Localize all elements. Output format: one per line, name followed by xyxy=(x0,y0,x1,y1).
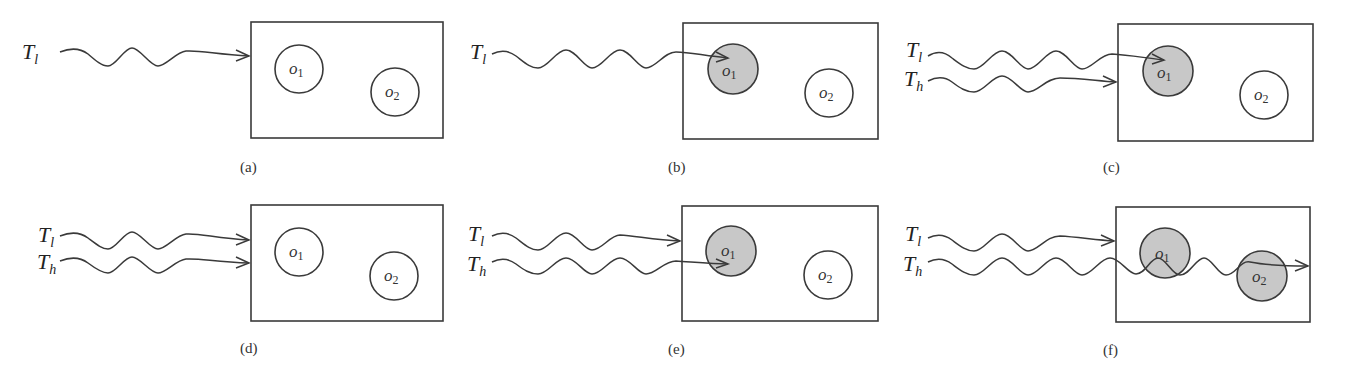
transaction-wave-th xyxy=(60,257,249,273)
panel-d: Tl Th o1 o2 (d) xyxy=(37,205,443,357)
transaction-wave-tl xyxy=(492,50,728,68)
transaction-wave-tl xyxy=(928,51,1164,69)
panel-caption: (d) xyxy=(240,340,258,357)
panel-caption: (f) xyxy=(1103,342,1118,359)
transaction-wave-tl xyxy=(60,48,249,66)
transaction-label-tl: Tl xyxy=(470,39,486,67)
transaction-wave-tl xyxy=(928,234,1114,251)
panel-caption: (c) xyxy=(1103,159,1120,176)
panel-caption: (e) xyxy=(668,341,685,358)
transaction-label-tl: Tl xyxy=(22,39,38,67)
panel-f: Tl Th o1 o2 (f) xyxy=(903,207,1310,359)
transaction-wave-th xyxy=(492,258,728,274)
transaction-wave-th xyxy=(928,76,1116,92)
transaction-label-tl: Tl xyxy=(468,221,484,249)
panel-caption: (b) xyxy=(668,159,686,176)
transaction-lock-diagram: Tl o1 o2 (a) Tl o1 o2 (b) Tl Th o1 o2 (c… xyxy=(0,0,1353,376)
transaction-label-th: Th xyxy=(904,66,923,94)
panel-e: Tl Th o1 o2 (e) xyxy=(467,206,878,358)
transaction-label-tl: Tl xyxy=(905,221,921,249)
transaction-label-tl: Tl xyxy=(906,37,922,65)
transaction-label-th: Th xyxy=(467,251,486,279)
panel-caption: (a) xyxy=(240,159,257,176)
transaction-label-tl: Tl xyxy=(38,222,54,250)
panel-c: Tl Th o1 o2 (c) xyxy=(904,24,1313,176)
transaction-label-th: Th xyxy=(37,249,56,277)
transaction-wave-tl xyxy=(60,232,249,249)
transaction-label-th: Th xyxy=(903,251,922,279)
panel-b: Tl o1 o2 (b) xyxy=(470,23,878,176)
panel-a: Tl o1 o2 (a) xyxy=(22,22,443,176)
transaction-wave-tl xyxy=(492,233,680,250)
